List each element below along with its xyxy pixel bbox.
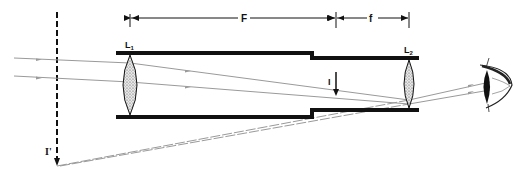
eye-icon [480,58,512,112]
virtual-image-arrow-icon [54,158,60,166]
label-intermediate-image: I [328,77,331,87]
label-eyepiece-lens: L2 [404,45,414,56]
label-virtual-image: I' [45,146,52,157]
focal-length-dimensions [130,12,409,28]
telescope-diagram: F f I' L1 L2 [0,0,527,175]
label-eyepiece-focal-length: f [369,13,373,24]
label-objective-focal-length: F [241,13,247,24]
telescope-tube [116,51,419,119]
intermediate-image-arrow-icon [333,89,339,96]
label-objective-lens: L1 [125,40,135,51]
